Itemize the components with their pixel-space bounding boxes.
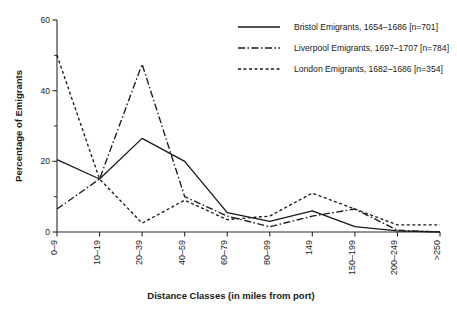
- x-tick-label: 0–9: [49, 240, 59, 255]
- x-tick-label: 150–199: [347, 240, 357, 275]
- x-tick-label: 10–19: [92, 240, 102, 265]
- x-tick-label: >250: [432, 240, 442, 260]
- y-tick-label: 60: [41, 15, 51, 25]
- legend-label: Liverpool Emigrants, 1697–1707 [n=784]: [294, 43, 449, 53]
- chart-figure: 0204060 0–910–1920–3940–5960–7980–991491…: [0, 0, 457, 315]
- x-tick-label: 20–39: [134, 240, 144, 265]
- x-axis-title: Distance Classes (in miles from port): [147, 290, 314, 301]
- y-tick-label: 40: [41, 86, 51, 96]
- legend-label: Bristol Emigrants, 1654–1686 [n=701]: [294, 22, 438, 32]
- emigrant-distance-line-chart: 0204060 0–910–1920–3940–5960–7980–991491…: [0, 0, 457, 315]
- x-tick-label: 60–79: [219, 240, 229, 265]
- x-tick-label: 40–59: [177, 240, 187, 265]
- y-axis-title: Percentage of Emigrants: [13, 70, 24, 182]
- x-tick-label: 80–99: [262, 240, 272, 265]
- y-tick-label: 0: [45, 227, 50, 237]
- x-tick-label: 200–249: [389, 240, 399, 275]
- y-tick-label: 20: [41, 156, 51, 166]
- legend-label: London Emigrants, 1682–1686 [n=354]: [294, 64, 443, 74]
- x-tick-label: 149: [304, 240, 314, 255]
